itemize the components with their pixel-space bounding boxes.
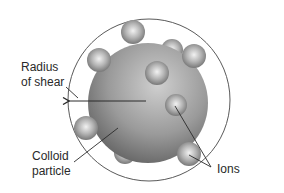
radius-of-shear-label-line1: Radius	[21, 60, 58, 74]
ion	[177, 142, 201, 166]
radius-of-shear-label-line2: of shear	[21, 75, 64, 89]
ion	[121, 20, 145, 44]
ion	[74, 116, 98, 140]
ion	[182, 44, 206, 68]
colloid-particle-label-line2: particle	[32, 164, 71, 178]
ion	[165, 94, 187, 116]
ions-label: Ions	[217, 162, 240, 176]
ion	[145, 61, 169, 85]
colloid-diagram: Radius of shear Colloid particle Ions	[0, 0, 284, 193]
colloid-particle-label-line1: Colloid	[32, 149, 69, 163]
ion	[87, 48, 111, 72]
